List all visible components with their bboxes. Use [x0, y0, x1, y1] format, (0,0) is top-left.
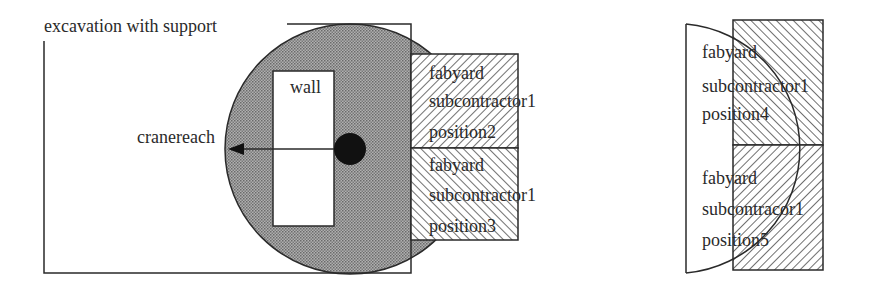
crane-reach-label: cranereach	[137, 127, 215, 147]
position5-line2: subcontracor1	[702, 199, 804, 219]
position5-line3: position5	[702, 230, 769, 250]
left-site-plan: excavation with support wall cranereach …	[44, 16, 536, 274]
right-site-plan: fabyard subcontractor1 position4 fabyard…	[686, 20, 823, 273]
position4-line2: subcontractor1	[702, 76, 809, 96]
site-layout-diagram: excavation with support wall cranereach …	[0, 0, 885, 293]
position3-line3: position3	[429, 216, 496, 236]
position2-line3: position2	[429, 122, 496, 142]
position4-line3: position4	[702, 104, 769, 124]
position4-line1: fabyard	[702, 42, 757, 62]
position3-line2: subcontractor1	[429, 185, 536, 205]
excavation-label: excavation with support	[44, 16, 217, 36]
wall-label: wall	[290, 77, 321, 97]
crane-position-dot	[334, 133, 366, 165]
position3-line1: fabyard	[429, 155, 484, 175]
position2-line2: subcontractor1	[429, 91, 536, 111]
position2-line1: fabyard	[429, 63, 484, 83]
position5-line1: fabyard	[702, 168, 757, 188]
